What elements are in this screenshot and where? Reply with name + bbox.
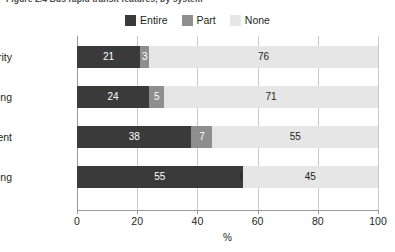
x-axis-line	[77, 210, 379, 211]
bar-value-label: 3	[142, 52, 148, 62]
category-label: Signal priority	[0, 52, 12, 63]
bar-value-label: 55	[154, 172, 165, 182]
legend-label-entire: Entire	[140, 15, 167, 26]
chart-legend: Entire Part None	[0, 12, 395, 28]
x-tick	[137, 210, 138, 214]
legend-label-none: None	[245, 15, 270, 26]
bar-segment-none: 55	[212, 126, 378, 148]
x-axis-title: %	[77, 233, 378, 243]
bar-row: 55045	[77, 166, 378, 188]
bar-value-label: 55	[290, 132, 301, 142]
bar-value-label: 38	[129, 132, 140, 142]
legend-swatch-part	[182, 15, 193, 26]
bar-value-label: 7	[199, 132, 205, 142]
bar-value-label: 21	[103, 52, 114, 62]
x-tick	[378, 210, 379, 214]
chart-figure: Figure 2.4 Bus rapid transit features, b…	[0, 0, 395, 252]
legend-item-entire: Entire	[125, 15, 167, 26]
x-tick	[258, 210, 259, 214]
bar-value-label: 24	[108, 92, 119, 102]
x-tick-label: 100	[358, 216, 395, 227]
plot-area: 21376245713875555045	[77, 36, 378, 210]
category-label: Overtaking	[0, 92, 12, 103]
legend-swatch-entire	[125, 15, 136, 26]
bar-row: 38755	[77, 126, 378, 148]
category-label: Level boarding	[0, 172, 12, 183]
bar-segment-entire: 21	[77, 46, 140, 68]
x-tick	[197, 210, 198, 214]
bar-row: 21376	[77, 46, 378, 68]
bar-segment-entire: 38	[77, 126, 191, 148]
x-tick-label: 80	[298, 216, 338, 227]
bar-value-label: 71	[266, 92, 277, 102]
legend-swatch-none	[230, 15, 241, 26]
legend-item-none: None	[230, 15, 270, 26]
x-tick-label: 40	[177, 216, 217, 227]
x-tick-label: 0	[57, 216, 97, 227]
x-tick	[77, 210, 78, 214]
bar-segment-entire: 24	[77, 86, 149, 108]
legend-item-part: Part	[182, 15, 216, 26]
bar-segment-part: 7	[191, 126, 212, 148]
bar-segment-none: 45	[243, 166, 378, 188]
bar-value-label: 5	[154, 92, 160, 102]
bar-segment-none: 76	[149, 46, 378, 68]
bar-value-label: 76	[258, 52, 269, 62]
legend-label-part: Part	[197, 15, 216, 26]
bar-segment-part: 3	[140, 46, 149, 68]
bar-segment-none: 71	[164, 86, 378, 108]
bar-row: 24571	[77, 86, 378, 108]
bar-segment-entire: 55	[77, 166, 243, 188]
bar-segment-part: 5	[149, 86, 164, 108]
category-label: Pre-payment	[0, 132, 12, 143]
x-tick-label: 20	[117, 216, 157, 227]
figure-title: Figure 2.4 Bus rapid transit features, b…	[6, 0, 389, 4]
x-tick-label: 60	[238, 216, 278, 227]
bar-value-label: 45	[305, 172, 316, 182]
x-tick	[318, 210, 319, 214]
gridline	[378, 36, 379, 210]
